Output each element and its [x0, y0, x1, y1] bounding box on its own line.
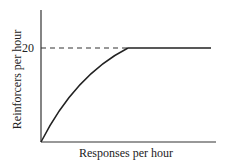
data-curve [41, 48, 211, 142]
x-axis-label: Responses per hour [41, 146, 211, 161]
y-axis-label: Reinforcers per hour [10, 25, 25, 135]
chart-plot [0, 0, 230, 163]
